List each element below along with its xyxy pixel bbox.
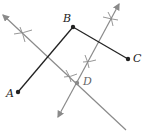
point-d <box>75 81 79 85</box>
segment-bc <box>73 27 128 59</box>
point-a <box>16 90 20 94</box>
label-a: A <box>5 87 14 100</box>
point-b <box>71 25 75 29</box>
arc-mark <box>83 12 118 68</box>
point-c <box>126 57 130 61</box>
geometry-diagram: A B C D <box>0 0 153 132</box>
label-d: D <box>82 75 92 88</box>
bisector-ab <box>3 15 126 130</box>
label-b: B <box>62 12 71 25</box>
label-c: C <box>133 52 142 65</box>
